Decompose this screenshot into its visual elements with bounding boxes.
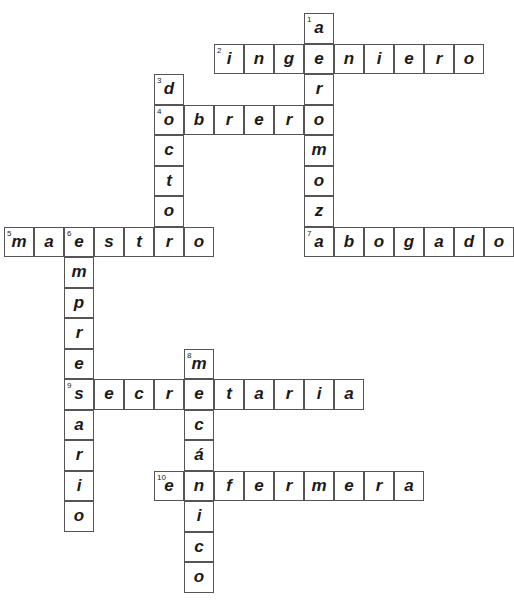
crossword-cell[interactable]: r xyxy=(274,471,304,502)
crossword-cell[interactable]: a xyxy=(64,410,94,441)
cell-letter: s xyxy=(74,384,83,404)
crossword-cell[interactable]: 10e xyxy=(154,471,184,502)
crossword-cell[interactable]: t xyxy=(154,166,184,197)
crossword-cell[interactable]: r xyxy=(274,105,304,136)
crossword-cell[interactable]: r xyxy=(364,471,394,502)
crossword-cell[interactable]: r xyxy=(154,379,184,410)
crossword-cell[interactable]: g xyxy=(274,44,304,75)
cell-letter: p xyxy=(74,293,84,313)
cell-letter: e xyxy=(194,384,203,404)
crossword-cell[interactable]: n xyxy=(334,44,364,75)
cell-letter: s xyxy=(104,232,113,252)
crossword-cell[interactable]: r xyxy=(154,227,184,258)
cell-letter: c xyxy=(164,140,173,160)
crossword-cell[interactable]: e xyxy=(394,44,424,75)
crossword-cell[interactable]: c xyxy=(124,379,154,410)
crossword-cell[interactable]: c xyxy=(184,532,214,563)
crossword-cell[interactable]: e xyxy=(94,379,124,410)
cell-letter: a xyxy=(344,384,353,404)
crossword-cell[interactable]: a xyxy=(34,227,64,258)
cell-letter: e xyxy=(404,49,413,69)
crossword-cell[interactable]: t xyxy=(124,227,154,258)
cell-letter: t xyxy=(226,384,232,404)
crossword-cell[interactable]: e xyxy=(304,44,334,75)
crossword-cell[interactable]: m xyxy=(64,257,94,288)
crossword-cell[interactable]: i xyxy=(304,379,334,410)
crossword-cell[interactable]: o xyxy=(64,501,94,532)
crossword-cell[interactable]: r xyxy=(214,105,244,136)
cell-letter: m xyxy=(191,354,206,374)
crossword-cell[interactable]: o xyxy=(184,227,214,258)
cell-letter: m xyxy=(311,476,326,496)
cell-letter: n xyxy=(344,49,354,69)
cell-letter: o xyxy=(164,201,174,221)
crossword-cell[interactable]: 1a xyxy=(304,13,334,44)
crossword-cell[interactable]: á xyxy=(184,440,214,471)
crossword-cell[interactable]: 6e xyxy=(64,227,94,258)
crossword-cell[interactable]: a xyxy=(244,379,274,410)
crossword-cell[interactable]: b xyxy=(184,105,214,136)
cell-letter: i xyxy=(227,49,232,69)
crossword-cell[interactable]: e xyxy=(64,349,94,380)
crossword-cell[interactable]: r xyxy=(64,440,94,471)
crossword-cell[interactable]: 3d xyxy=(154,74,184,105)
crossword-cell[interactable]: o xyxy=(484,227,514,258)
cell-letter: r xyxy=(286,476,293,496)
cell-letter: o xyxy=(74,506,84,526)
crossword-cell[interactable]: n xyxy=(184,471,214,502)
cell-letter: á xyxy=(194,445,203,465)
crossword-cell[interactable]: c xyxy=(184,410,214,441)
crossword-cell[interactable]: e xyxy=(334,471,364,502)
crossword-cell[interactable]: z xyxy=(304,196,334,227)
crossword-cell[interactable]: o xyxy=(304,166,334,197)
crossword-cell[interactable]: 7a xyxy=(304,227,334,258)
cell-letter: r xyxy=(286,384,293,404)
cell-letter: m xyxy=(71,262,86,282)
crossword-cell[interactable]: e xyxy=(244,471,274,502)
crossword-cell[interactable]: f xyxy=(214,471,244,502)
crossword-cell[interactable]: r xyxy=(304,74,334,105)
crossword-cell[interactable]: s xyxy=(94,227,124,258)
crossword-cell[interactable]: r xyxy=(274,379,304,410)
crossword-cell[interactable]: d xyxy=(454,227,484,258)
crossword-cell[interactable]: n xyxy=(244,44,274,75)
crossword-cell[interactable]: o xyxy=(364,227,394,258)
cell-letter: r xyxy=(76,445,83,465)
crossword-cell[interactable]: o xyxy=(154,196,184,227)
crossword-cell[interactable]: 5m xyxy=(4,227,34,258)
crossword-cell[interactable]: 2i xyxy=(214,44,244,75)
crossword-cell[interactable]: o xyxy=(184,562,214,593)
crossword-cell[interactable]: b xyxy=(334,227,364,258)
crossword-cell[interactable]: c xyxy=(154,135,184,166)
crossword-cell[interactable]: i xyxy=(184,501,214,532)
crossword-cell[interactable]: a xyxy=(394,471,424,502)
crossword-cell[interactable]: a xyxy=(424,227,454,258)
cell-letter: c xyxy=(194,415,203,435)
crossword-cell[interactable]: r xyxy=(424,44,454,75)
cell-letter: c xyxy=(134,384,143,404)
crossword-cell[interactable]: m xyxy=(304,135,334,166)
cell-letter: o xyxy=(314,171,324,191)
crossword-cell[interactable]: e xyxy=(244,105,274,136)
crossword-cell[interactable]: 4o xyxy=(154,105,184,136)
crossword-cell[interactable]: o xyxy=(454,44,484,75)
crossword-cell[interactable]: o xyxy=(304,105,334,136)
cell-letter: e xyxy=(344,476,353,496)
cell-letter: r xyxy=(166,232,173,252)
crossword-cell[interactable]: g xyxy=(394,227,424,258)
clue-number: 10 xyxy=(157,473,166,482)
crossword-cell[interactable]: t xyxy=(214,379,244,410)
crossword-cell[interactable]: m xyxy=(304,471,334,502)
crossword-cell[interactable]: 8m xyxy=(184,349,214,380)
cell-letter: a xyxy=(314,232,323,252)
clue-number: 9 xyxy=(67,381,71,390)
crossword-cell[interactable]: p xyxy=(64,288,94,319)
cell-letter: o xyxy=(374,232,384,252)
crossword-cell[interactable]: i xyxy=(64,471,94,502)
cell-letter: f xyxy=(226,476,232,496)
crossword-cell[interactable]: 9s xyxy=(64,379,94,410)
crossword-cell[interactable]: e xyxy=(184,379,214,410)
crossword-cell[interactable]: a xyxy=(334,379,364,410)
crossword-cell[interactable]: r xyxy=(64,318,94,349)
crossword-cell[interactable]: i xyxy=(364,44,394,75)
